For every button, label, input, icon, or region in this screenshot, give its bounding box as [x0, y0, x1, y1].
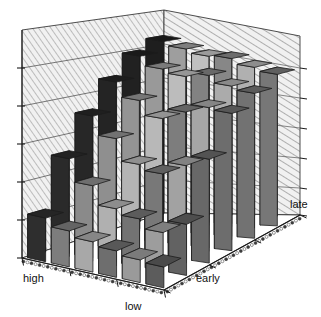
floor-border-dot [232, 254, 235, 257]
floor-border-dot [243, 248, 246, 251]
floor-border-dot [228, 256, 231, 259]
right-axis-ticks [300, 68, 307, 216]
floor-border-dot [265, 235, 268, 238]
floor-border-dot [131, 285, 134, 288]
bar-front-face [99, 247, 117, 278]
floor-border-dot [269, 233, 272, 236]
floor-border-dot [160, 291, 163, 294]
bar-front-face [28, 214, 46, 262]
floor-border-dot [280, 227, 283, 230]
floor-border-dot [272, 231, 275, 234]
floor-border-dot [188, 278, 191, 281]
floor-border-dot [111, 280, 114, 283]
floor-border-dot [62, 269, 65, 272]
floor-border-dot [71, 271, 74, 274]
bar-front-face [75, 238, 93, 272]
floor-border-dot [140, 286, 143, 289]
floor-border-dot [236, 252, 239, 255]
floor-border-dot [156, 290, 159, 293]
floor-border-dot [276, 229, 279, 232]
bar-front-face [192, 156, 210, 263]
floor-border-dot [239, 250, 242, 253]
right-tick-2 [300, 158, 307, 159]
floor-border-dot [225, 258, 228, 261]
bar-front-face [260, 71, 277, 225]
floor-border-dot [58, 268, 61, 271]
floor-border-dot [26, 261, 29, 264]
floor-border-dot [87, 275, 90, 278]
axis-label-high: high [23, 272, 44, 284]
bar-front-face [237, 90, 254, 238]
axis-label-early: early [196, 272, 220, 284]
floor-border-dot [83, 274, 86, 277]
axis-label-low: low [125, 300, 142, 312]
floor-border-dot [250, 243, 253, 246]
floor-border-dot [123, 283, 126, 286]
floor-border-dot [103, 278, 106, 281]
floor-border-dot [287, 223, 290, 226]
floor-border-dot [119, 282, 122, 285]
floor-border-dot [67, 270, 70, 273]
right-tick-3 [300, 128, 307, 129]
floor-border-dot [221, 260, 224, 263]
floor-border-dot [206, 268, 209, 271]
floor-border-dot [247, 246, 250, 249]
floor-border-dot [34, 263, 37, 266]
right-tick-1 [300, 188, 307, 189]
floor-border-dot [79, 273, 82, 276]
floor-border-dot [254, 241, 257, 244]
floor-border-dot [107, 279, 110, 282]
right-tick-4 [300, 98, 307, 99]
floor-border-dot [173, 286, 176, 289]
floor-border-dot [291, 221, 294, 224]
floor-border-dot [169, 288, 172, 291]
floor-border-dot [177, 284, 180, 287]
floor-border-dot [184, 280, 187, 283]
floor-border-dot [99, 277, 102, 280]
right-tick-5 [300, 68, 307, 69]
floor-border-dot [91, 275, 94, 278]
floor-border-dot [42, 264, 45, 267]
floor-border-dot [148, 288, 151, 291]
floor-border-dot [127, 284, 130, 287]
floor-border-dot [54, 267, 57, 270]
bar-front-face [51, 227, 69, 267]
floor-border-dot [30, 262, 33, 265]
floor-border-dot [180, 282, 183, 285]
floor-border-dot [152, 289, 155, 292]
bar-chart-3d: high low early late [0, 0, 321, 317]
floor-border-dot [261, 237, 264, 240]
floor-border-dot [214, 264, 217, 267]
floor-border-dot [95, 276, 98, 279]
floor-border-dot [46, 265, 49, 268]
axis-label-late: late [290, 198, 308, 210]
floor-border-dot [38, 264, 41, 267]
floor-border-dot [217, 262, 220, 265]
floor-border-dot [135, 285, 138, 288]
floor-border-dot [50, 266, 53, 269]
floor-border-dot [75, 272, 78, 275]
chart-container: high low early late [0, 0, 321, 317]
floor-border-dot [283, 225, 286, 228]
floor-border-dot [192, 276, 195, 279]
bar-front-face [122, 256, 140, 283]
bar-front-face [214, 110, 232, 250]
floor-border-dot [144, 287, 147, 290]
floor-border-dot [294, 219, 297, 222]
floor-border-dot [298, 217, 301, 220]
